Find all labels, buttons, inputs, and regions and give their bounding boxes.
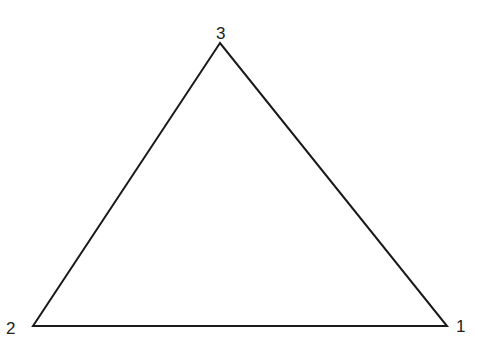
triangle	[33, 43, 447, 326]
vertex-label-3: 3	[216, 24, 225, 43]
vertex-label-1: 1	[456, 317, 465, 336]
triangle-diagram: 3 2 1	[0, 0, 478, 353]
vertex-label-2: 2	[6, 319, 15, 338]
